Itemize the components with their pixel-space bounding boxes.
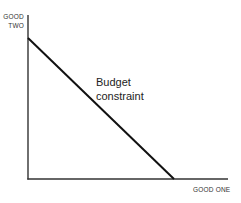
budget-constraint-line — [28, 38, 174, 179]
annotation-line-2: constraint — [96, 89, 144, 103]
y-axis-label: GOOD TWO — [3, 12, 24, 30]
x-axis-label: GOOD ONE — [193, 186, 230, 193]
annotation-line-1: Budget — [96, 75, 144, 89]
y-axis-label-line-2: TWO — [3, 21, 24, 30]
y-axis-label-line-1: GOOD — [3, 12, 24, 21]
budget-constraint-annotation: Budget constraint — [96, 75, 144, 103]
